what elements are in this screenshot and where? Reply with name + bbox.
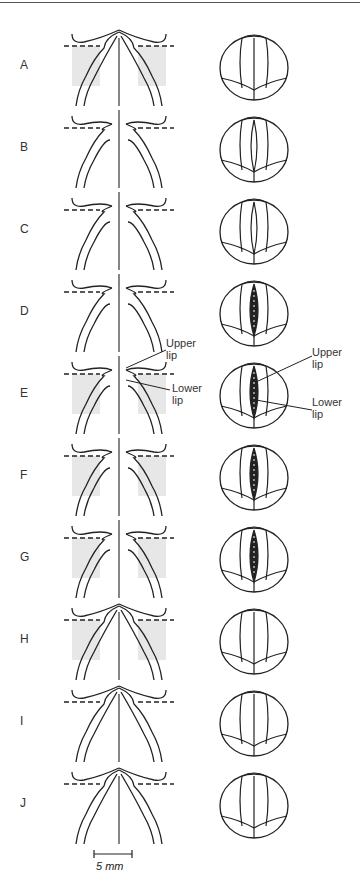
vocal-fold-section [64,766,174,846]
row-label: G [20,550,29,564]
vocal-fold-section [64,520,174,600]
figure-row: J [0,766,360,846]
row-label: I [20,714,23,728]
vocal-fold-section [64,192,174,272]
vocal-fold-section [64,110,174,190]
figure-row: I [0,684,360,764]
top-rule [0,2,360,3]
glottis-view [216,360,296,432]
vocal-fold-section [64,438,174,518]
glottis-view [216,524,296,596]
glottis-view [216,688,296,760]
figure-row: C [0,192,360,272]
row-label: D [20,304,29,318]
glottis-view [216,32,296,104]
glottis-upper-lip-label: Upper lip [312,346,342,370]
figure-row: H [0,602,360,682]
scale-bar-label: 5 mm [96,860,124,872]
figure-row: G [0,520,360,600]
row-label: E [20,386,28,400]
glottis-lower-lip-label: Lower lip [312,396,342,420]
section-upper-lip-label: Upper lip [166,337,196,361]
vocal-fold-section [64,684,174,764]
glottis-view [216,770,296,842]
vocal-fold-section [64,28,174,108]
vocal-fold-section [64,602,174,682]
row-label: C [20,222,29,236]
glottis-view [216,196,296,268]
row-label: A [20,58,28,72]
figure-row: A [0,28,360,108]
row-label: F [20,468,27,482]
figure-row: B [0,110,360,190]
section-lower-lip-label: Lower lip [172,382,202,406]
glottis-view [216,278,296,350]
lip-leader-lines [120,356,180,416]
vocal-fold-section [64,274,174,354]
row-label: B [20,140,28,154]
glottis-view [216,114,296,186]
figure-row: F [0,438,360,518]
glottis-view [216,442,296,514]
row-label: H [20,632,29,646]
glottis-view [216,606,296,678]
row-label: J [20,796,26,810]
